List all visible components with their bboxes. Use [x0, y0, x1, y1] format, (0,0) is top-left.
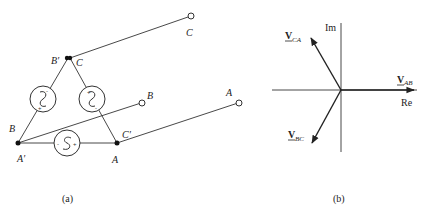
- node-label-A-prime: A′: [16, 153, 26, 164]
- phasor-label-V-BC: V BC: [288, 129, 304, 143]
- terminal-A: [236, 100, 242, 106]
- junction-dot: [68, 56, 72, 60]
- node-label-B-prime: B′: [51, 55, 60, 66]
- terminal-B: [139, 100, 145, 106]
- source-bottom: - +: [54, 130, 80, 156]
- phasor-label-sub: AB: [403, 79, 413, 87]
- phasor-label-V-AB: V AB: [397, 74, 413, 87]
- polarity-plus: +: [87, 89, 91, 95]
- polarity-minus: -: [95, 105, 97, 111]
- phasor-V-CA-arrow: [311, 38, 341, 90]
- axis-label-re: Re: [401, 97, 413, 108]
- source-right: + -: [79, 86, 105, 112]
- caption-a: (a): [62, 193, 73, 205]
- junction-dot: [115, 141, 120, 146]
- caption-b: (b): [333, 193, 345, 205]
- wire-to-terminal-A: [117, 103, 238, 143]
- polarity-plus: +: [73, 141, 77, 147]
- terminal-C: [188, 13, 194, 19]
- phasor-label-sub: BC: [295, 135, 304, 143]
- source-left: - +: [30, 86, 56, 112]
- polarity-minus: -: [46, 88, 48, 94]
- node-label-C-prime: C′: [122, 129, 132, 140]
- axis-label-im: Im: [325, 22, 336, 33]
- node-label-A-right: A: [111, 154, 119, 165]
- figure-canvas: - + + - - + B′ C B A′ C′ A: [0, 0, 430, 218]
- wire-to-terminal-C: [70, 17, 188, 58]
- terminal-label-C: C: [186, 27, 193, 38]
- phasor-label-sub: CA: [292, 36, 302, 44]
- junction-dot: [16, 141, 21, 146]
- phasor-label-V-CA: V CA: [285, 30, 302, 44]
- node-label-B-left: B: [9, 123, 15, 134]
- polarity-plus: +: [38, 105, 42, 111]
- terminal-label-B: B: [147, 90, 153, 101]
- panel-a-delta-circuit: - + + - - + B′ C B A′ C′ A: [9, 13, 242, 205]
- node-label-C-top: C: [76, 57, 83, 68]
- polarity-minus: -: [57, 141, 59, 147]
- phasor-V-BC-arrow: [312, 90, 341, 143]
- panel-b-phasor-diagram: Im Re V AB V CA V BC (b): [272, 22, 417, 205]
- terminal-label-A: A: [225, 87, 233, 98]
